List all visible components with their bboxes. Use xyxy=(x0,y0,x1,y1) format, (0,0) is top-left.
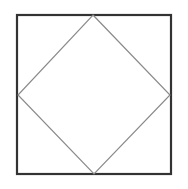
inscribed-diamond xyxy=(18,15,170,174)
diagram-canvas xyxy=(0,0,188,189)
outer-square xyxy=(17,15,171,174)
